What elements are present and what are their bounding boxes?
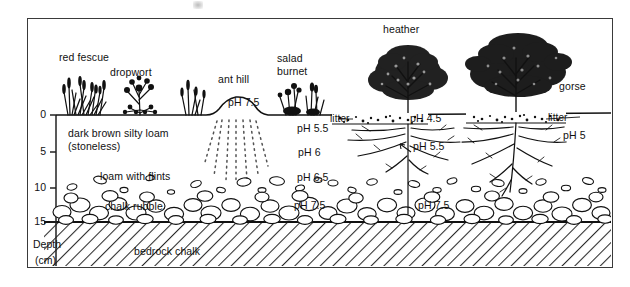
axis-tick-15: 15 (24, 215, 46, 227)
horizon-label-silty-loam-line2: (stoneless) (68, 141, 120, 153)
litter-label-heather: litter (330, 113, 350, 124)
plant-label-ant-hill: ant hill (218, 74, 249, 86)
ph-label-mid-soil: pH 6 (298, 147, 321, 159)
plant-label-burnet: burnet (277, 66, 307, 78)
ph-label-gorse-roots: pH 5 (563, 130, 586, 142)
horizon-label-bedrock-chalk: bedrock chalk (134, 246, 200, 258)
axis-tick-0: 0 (24, 108, 46, 120)
ph-label-chalk-rubble-left: pH 7.5 (294, 200, 326, 212)
figure-canvas: red fescue dropwort ant hill salad burne… (0, 0, 630, 287)
plant-label-gorse: gorse (559, 81, 586, 93)
ph-label-chalk-rubble-right: pH 7.5 (418, 200, 450, 212)
ph-label-heather-litter: pH 4.5 (410, 113, 442, 125)
horizon-label-loam-with-flints: loam with flints (100, 171, 170, 183)
ph-label-loam-flints: pH 6.5 (297, 172, 329, 184)
litter-label-gorse: litter (548, 112, 568, 123)
ph-label-ant-hill: pH 7.5 (228, 97, 260, 109)
ph-label-topsoil: pH 5.5 (297, 123, 329, 135)
plant-label-red-fescue: red fescue (59, 52, 109, 64)
plant-label-heather: heather (383, 24, 419, 36)
axis-caption-unit: (cm) (35, 254, 56, 267)
axis-tick-10: 10 (24, 181, 46, 193)
plant-label-salad: salad (277, 53, 303, 65)
ph-label-heather-roots: pH 5.5 (413, 141, 445, 153)
axis-caption-depth: Depth (33, 238, 61, 251)
horizon-label-silty-loam-line1: dark brown silty loam (68, 128, 169, 140)
horizon-label-chalk-rubble: chalk rubble (105, 201, 163, 213)
axis-tick-5: 5 (24, 145, 46, 157)
plant-label-dropwort: dropwort (110, 67, 152, 79)
